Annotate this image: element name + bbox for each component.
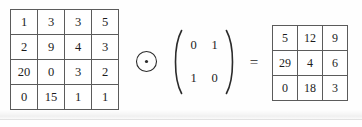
matrix-cell: 2	[92, 60, 119, 85]
matrix-row: 1 3 3 5	[11, 10, 119, 35]
matrix-cell: 0	[38, 60, 65, 85]
matrix-cell: 1	[65, 85, 92, 110]
input-matrix: 1 3 3 5 2 9 4 3 20 0 3 2 0 15 1 1	[10, 9, 119, 110]
matrix-cell: 1	[92, 85, 119, 110]
matrix-cell: 2	[11, 35, 38, 60]
matrix-row: 0 18 3	[273, 76, 348, 101]
kernel-matrix: 0 1 1 0	[176, 29, 232, 95]
page-shadow-line	[0, 119, 362, 120]
right-parenthesis-icon	[225, 29, 234, 95]
matrix-row: 20 0 3 2	[11, 60, 119, 85]
matrix-cell: 5	[92, 10, 119, 35]
equals-sign: =	[246, 52, 262, 72]
kernel-cell: 1	[204, 29, 225, 62]
matrix-cell: 3	[65, 10, 92, 35]
matrix-cell: 0	[273, 76, 298, 101]
kernel-cells: 0 1 1 0	[183, 29, 225, 95]
convolution-operator-icon	[135, 50, 158, 73]
matrix-row: 5 12 9	[273, 26, 348, 51]
matrix-cell: 5	[273, 26, 298, 51]
matrix-cell: 3	[92, 35, 119, 60]
matrix-cell: 9	[38, 35, 65, 60]
matrix-row: 29 4 6	[273, 51, 348, 76]
matrix-cell: 6	[323, 51, 348, 76]
matrix-cell: 0	[11, 85, 38, 110]
output-matrix: 5 12 9 29 4 6 0 18 3	[272, 25, 348, 101]
matrix-cell: 18	[298, 76, 323, 101]
matrix-cell: 4	[65, 35, 92, 60]
kernel-cell: 0	[204, 62, 225, 95]
matrix-row: 2 9 4 3	[11, 35, 119, 60]
diagram-canvas: 1 3 3 5 2 9 4 3 20 0 3 2 0 15 1 1	[0, 0, 362, 127]
matrix-cell: 3	[323, 76, 348, 101]
matrix-cell: 1	[11, 10, 38, 35]
matrix-cell: 9	[323, 26, 348, 51]
matrix-cell: 3	[65, 60, 92, 85]
matrix-cell: 3	[38, 10, 65, 35]
matrix-cell: 29	[273, 51, 298, 76]
matrix-cell: 20	[11, 60, 38, 85]
left-parenthesis-icon	[174, 29, 183, 95]
matrix-cell: 4	[298, 51, 323, 76]
kernel-cell: 0	[183, 29, 204, 62]
kernel-cell: 1	[183, 62, 204, 95]
matrix-row: 0 15 1 1	[11, 85, 119, 110]
matrix-cell: 12	[298, 26, 323, 51]
matrix-cell: 15	[38, 85, 65, 110]
